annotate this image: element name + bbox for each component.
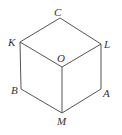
vertex-label-a: A [102, 87, 110, 99]
vertex-label-m: M [56, 115, 67, 127]
edge-AM [62, 89, 101, 113]
vertex-label-l: L [103, 38, 110, 50]
edge-BM [21, 89, 62, 113]
edge-CK [20, 18, 60, 42]
cube-diagram: C K L O B A M [0, 0, 122, 135]
vertex-label-b: B [11, 84, 18, 96]
vertex-label-c: C [54, 6, 62, 18]
vertex-label-o: O [57, 52, 65, 64]
vertex-label-k: K [7, 36, 16, 48]
edge-LO [62, 44, 101, 67]
edge-KB [20, 42, 21, 89]
edge-KO [20, 42, 62, 67]
edge-CL [60, 18, 101, 44]
